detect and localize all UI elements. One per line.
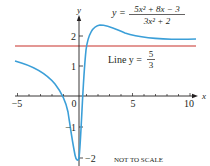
equation-numerator: 5x² + 8x − 3 xyxy=(134,4,180,14)
y-tick-label: −2 xyxy=(85,153,96,164)
asymptote-fraction-numerator: 5 xyxy=(149,49,154,59)
equation-lhs: y = xyxy=(111,7,126,18)
x-tick-label: −5 xyxy=(12,98,23,109)
asymptote-fraction-denominator: 3 xyxy=(149,60,154,70)
x-tick-label: 5 xyxy=(131,98,136,109)
y-tick-label: −1 xyxy=(65,122,76,133)
asymptote-label: Line y = xyxy=(108,54,142,65)
function-graph: −5 0 5 10 x 2 1 −1 −2 y y = 5x² + 8x − 3… xyxy=(0,0,210,166)
chart-svg: −5 0 5 10 x 2 1 −1 −2 y y = 5x² + 8x − 3… xyxy=(0,0,210,166)
x-tick-label: 10 xyxy=(184,98,194,109)
y-axis-arrow-icon xyxy=(77,15,81,21)
y-tick-label: 1 xyxy=(71,61,76,72)
y-tick-label: 2 xyxy=(71,31,76,42)
x-axis-label: x xyxy=(201,91,206,101)
y-axis-label: y xyxy=(76,5,81,15)
x-tick-label: 0 xyxy=(72,98,77,109)
equation-denominator: 3x² + 2 xyxy=(143,16,171,26)
not-to-scale-note: NOT TO SCALE xyxy=(114,156,163,164)
function-curve xyxy=(15,25,196,160)
